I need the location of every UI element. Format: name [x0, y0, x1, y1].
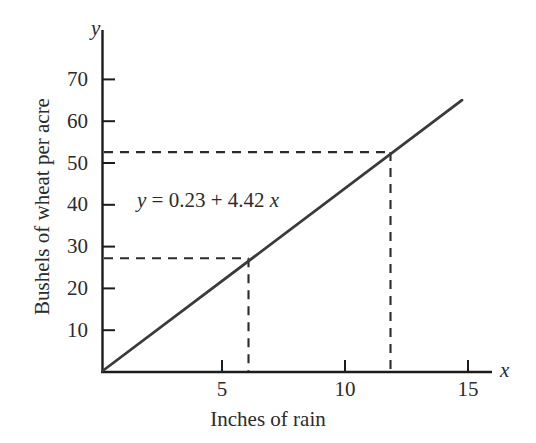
equation-intercept: 0.23: [169, 188, 206, 212]
y-tick-label-30: 30: [48, 236, 88, 257]
equation-plus: +: [205, 188, 227, 212]
x-axis-title: Inches of rain: [0, 409, 536, 430]
chart-figure: 70 60 50 40 30 20 10 5 10 15 y x y = 0.2…: [0, 0, 536, 443]
y-tick-label-20: 20: [48, 278, 88, 299]
regression-equation-label: y = 0.23 + 4.42 x: [137, 190, 279, 211]
y-axis-ticks: [103, 79, 115, 330]
y-tick-label-50: 50: [48, 153, 88, 174]
x-tick-label-15: 15: [448, 379, 488, 400]
equation-lhs: y: [137, 188, 146, 212]
equation-xvar: x: [270, 188, 279, 212]
equation-slope: 4.42: [228, 188, 265, 212]
y-tick-label-70: 70: [48, 69, 88, 90]
y-tick-label-10: 10: [48, 320, 88, 341]
equation-equals: =: [146, 188, 168, 212]
regression-line: [103, 100, 463, 371]
y-axis-letter: y: [91, 18, 100, 39]
x-axis-letter: x: [500, 360, 509, 381]
x-axis-ticks: [222, 360, 468, 371]
y-axis-title: Bushels of wheat per acre: [32, 57, 53, 357]
y-tick-label-40: 40: [48, 194, 88, 215]
x-tick-label-5: 5: [202, 379, 242, 400]
x-tick-label-10: 10: [325, 379, 365, 400]
y-tick-label-60: 60: [48, 111, 88, 132]
